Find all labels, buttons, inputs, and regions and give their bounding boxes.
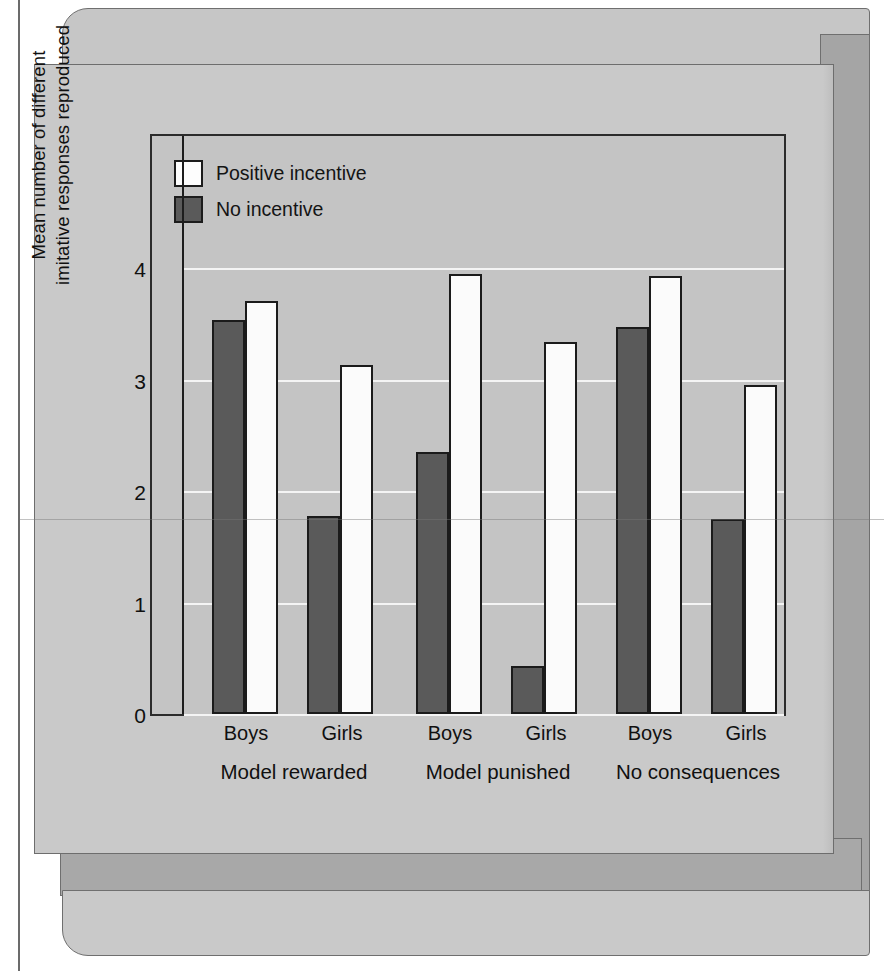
bar-no-consequences-boys-no-incentive	[616, 327, 649, 714]
plot-area	[184, 136, 784, 714]
page-spine-rule	[18, 0, 20, 971]
y-tick-2: 2	[134, 481, 146, 505]
background-sheet-top	[62, 8, 870, 70]
bar-model-punished-girls-positive-incentive	[544, 342, 577, 714]
y-axis-ticks: 0 1 2 3 4	[108, 134, 146, 716]
x-group-label-model-punished: Model punished	[426, 760, 571, 784]
y-axis-title-line2: imitative responses reproduced	[51, 0, 75, 365]
y-axis-title-line1: Mean number of different	[27, 0, 51, 365]
gridline-0	[184, 714, 784, 716]
y-axis-title: Mean number of different imitative respo…	[27, 0, 76, 365]
x-group-label-no-consequences: No consequences	[616, 760, 780, 784]
bar-model-punished-boys-positive-incentive	[449, 274, 482, 714]
bar-model-rewarded-girls-no-incentive	[307, 516, 340, 715]
x-label-model-rewarded-boys: Boys	[224, 722, 268, 745]
bar-group-no-consequences	[606, 136, 786, 714]
bars-layer	[184, 136, 784, 714]
x-label-no-consequences-girls: Girls	[725, 722, 766, 745]
figure-root: Mean number of different imitative respo…	[0, 0, 884, 971]
bar-model-rewarded-boys-no-incentive	[212, 320, 245, 714]
background-sheet-bottom	[62, 890, 870, 956]
bar-model-punished-girls-no-incentive	[511, 666, 544, 714]
y-tick-4: 4	[134, 258, 146, 282]
x-label-model-punished-boys: Boys	[428, 722, 472, 745]
x-group-label-model-rewarded: Model rewarded	[221, 760, 368, 784]
y-tick-3: 3	[134, 370, 146, 394]
bar-group-model-rewarded	[202, 136, 382, 714]
y-tick-0: 0	[134, 704, 146, 728]
x-label-no-consequences-boys: Boys	[628, 722, 672, 745]
page-spine	[0, 0, 18, 971]
bar-model-rewarded-girls-positive-incentive	[340, 365, 373, 714]
x-label-model-rewarded-girls: Girls	[321, 722, 362, 745]
bar-model-rewarded-boys-positive-incentive	[245, 301, 278, 714]
bar-group-model-punished	[406, 136, 586, 714]
bar-no-consequences-girls-positive-incentive	[744, 385, 777, 714]
plot-frame: Positive incentive No incentive	[150, 134, 786, 716]
bar-model-punished-boys-no-incentive	[416, 452, 449, 714]
x-axis-group-labels: Model rewarded Model punished No consequ…	[150, 760, 810, 800]
x-label-model-punished-girls: Girls	[525, 722, 566, 745]
bar-no-consequences-boys-positive-incentive	[649, 276, 682, 714]
x-axis-category-labels: Boys Girls Boys Girls Boys Girls	[150, 722, 786, 762]
y-tick-1: 1	[134, 593, 146, 617]
bar-no-consequences-girls-no-incentive	[711, 519, 744, 714]
